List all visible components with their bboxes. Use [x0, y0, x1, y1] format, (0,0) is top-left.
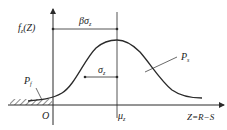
pf-label: Pf — [24, 76, 32, 89]
mu-label: μz — [118, 111, 125, 124]
beta-sigma-label: βσz — [79, 16, 91, 29]
y-axis-label: fz(Z) — [18, 23, 35, 36]
failure-region-hatch — [10, 99, 52, 105]
diagram-canvas — [0, 0, 227, 130]
origin-label: O — [42, 111, 49, 121]
sigma-label: σz — [98, 65, 105, 78]
density-curve — [28, 40, 202, 101]
pf-leader — [36, 88, 42, 100]
x-axis-label: Z=R−S — [187, 112, 214, 122]
reliability-diagram: fz(Z) βσz σz Ps Pf O μz Z=R−S — [0, 0, 227, 130]
ps-label: Ps — [181, 52, 189, 65]
